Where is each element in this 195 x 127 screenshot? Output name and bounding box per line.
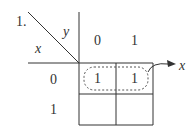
col-header-1: 1 <box>131 34 138 48</box>
col-header-0: 0 <box>94 34 101 48</box>
problem-number: 1. <box>16 15 27 29</box>
cell-0-0: 1 <box>94 72 101 86</box>
group-arrow <box>148 64 168 72</box>
col-variable-label: y <box>63 25 69 39</box>
group-output-label: x <box>179 59 185 73</box>
row-variable-label: x <box>35 42 41 56</box>
cell-0-1: 1 <box>131 72 138 86</box>
row-header-1: 1 <box>50 103 57 117</box>
kmap-lines <box>0 0 195 127</box>
arrowhead-icon <box>167 60 176 67</box>
row-header-0: 0 <box>50 73 57 87</box>
